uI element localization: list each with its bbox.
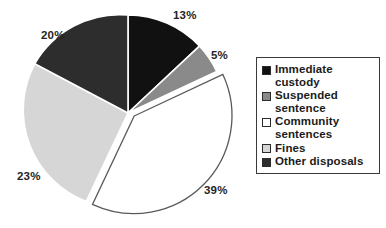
pie-label-suspended-sentence: 5%: [211, 50, 228, 62]
legend-label: Other disposals: [275, 155, 363, 168]
legend-label: Community sentences: [275, 115, 375, 140]
pie-chart: 13% 5% 39% 23% 20% Immediate custody Sus…: [0, 0, 386, 228]
legend-item-suspended-sentence[interactable]: Suspended sentence: [262, 89, 375, 114]
legend-item-other-disposals[interactable]: Other disposals: [262, 155, 375, 168]
legend-item-fines[interactable]: Fines: [262, 142, 375, 155]
pie-label-fines: 23%: [17, 171, 41, 183]
pie-label-other-disposals: 20%: [41, 30, 65, 42]
chart-legend: Immediate custody Suspended sentence Com…: [256, 57, 380, 174]
legend-swatch-icon: [262, 158, 271, 167]
pie-label-immediate-custody: 13%: [173, 10, 197, 22]
legend-swatch-icon: [262, 144, 271, 153]
legend-swatch-icon: [262, 66, 271, 75]
pie-label-community-sentences: 39%: [204, 185, 228, 197]
legend-swatch-icon: [262, 92, 271, 101]
legend-label: Fines: [275, 142, 306, 155]
legend-item-immediate-custody[interactable]: Immediate custody: [262, 63, 375, 88]
legend-label: Immediate custody: [275, 63, 375, 88]
legend-swatch-icon: [262, 118, 271, 127]
pie-plot-area: 13% 5% 39% 23% 20%: [0, 0, 246, 228]
legend-item-community-sentences[interactable]: Community sentences: [262, 115, 375, 140]
legend-label: Suspended sentence: [275, 89, 375, 114]
